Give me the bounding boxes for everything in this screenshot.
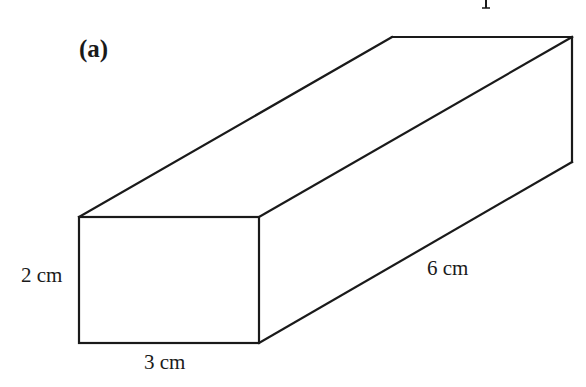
height-label: 2 cm	[21, 265, 62, 286]
part-label: (a)	[79, 36, 108, 61]
front-face	[79, 217, 259, 343]
width-label: 3 cm	[144, 352, 185, 373]
edge-top-left-depth	[79, 37, 392, 217]
length-label: 6 cm	[427, 258, 468, 279]
